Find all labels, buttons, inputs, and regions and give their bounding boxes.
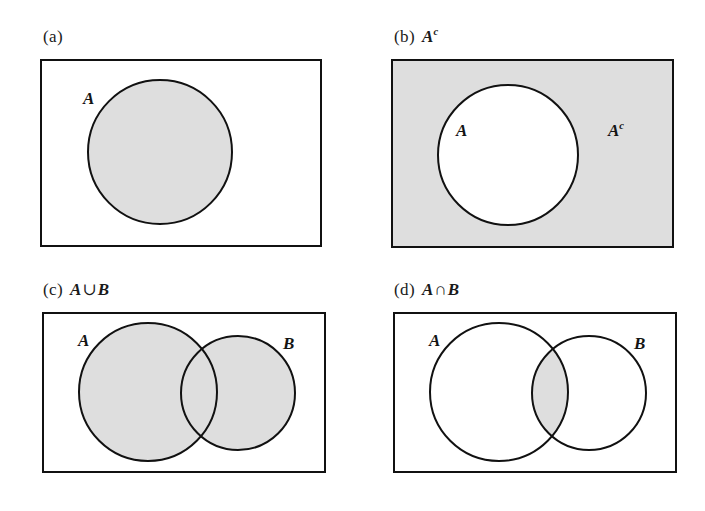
panel-expression-c: A∪B [70, 280, 109, 299]
expression-operator: ∩ [433, 280, 447, 299]
set-label-a-b: A [456, 122, 467, 139]
set-label-b-d: B [634, 335, 645, 352]
panel-expression-d: A∩B [422, 280, 459, 299]
panel-enumerator-d: (d) [394, 280, 415, 299]
set-label-a-complement-b: Ac [608, 122, 624, 139]
venn-diagram-b [388, 56, 677, 251]
expression-operand-left: A [70, 280, 81, 299]
expression-superscript: c [433, 26, 438, 37]
panel-expression-b: Ac [422, 27, 438, 46]
expression-operand-right: B [448, 280, 459, 299]
venn-figure: (a)A(b)AcAAc(c)A∪BAB(d)A∩BAB [0, 0, 705, 511]
panel-caption-d: (d)A∩B [394, 281, 459, 298]
panel-b [388, 56, 677, 251]
expression-operand-left: A [422, 280, 433, 299]
set-label-a-c: A [78, 332, 89, 349]
panel-caption-b: (b)Ac [394, 28, 438, 45]
expression-operand-left: A [422, 27, 433, 46]
set-label-text: B [634, 334, 645, 353]
panel-caption-c: (c)A∪B [43, 281, 109, 298]
panel-enumerator-a: (a) [43, 27, 63, 46]
panel-enumerator-c: (c) [43, 280, 63, 299]
set-label-text: A [83, 89, 94, 108]
set-label-text: B [283, 334, 294, 353]
panel-a [37, 56, 325, 250]
venn-diagram-a [37, 56, 325, 250]
set-label-text: A [608, 121, 619, 140]
set-label-superscript: c [619, 120, 624, 131]
expression-operand-right: B [98, 280, 109, 299]
set-label-a-a: A [83, 90, 94, 107]
set-label-a-d: A [429, 332, 440, 349]
expression-operator: ∪ [81, 280, 97, 299]
set-label-text: A [78, 331, 89, 350]
set-label-text: A [456, 121, 467, 140]
panel-enumerator-b: (b) [394, 27, 415, 46]
set-label-b-c: B [283, 335, 294, 352]
set-label-text: A [429, 331, 440, 350]
panel-caption-a: (a) [43, 28, 63, 45]
